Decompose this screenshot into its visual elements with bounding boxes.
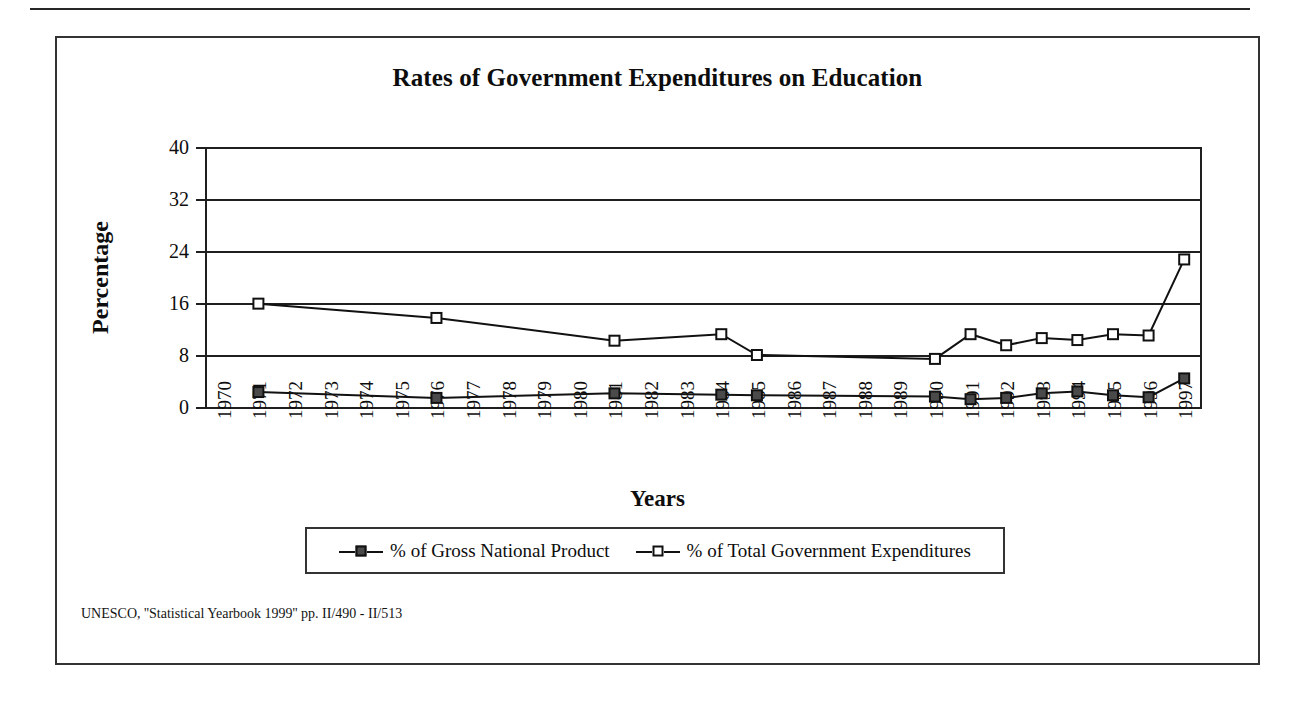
legend-label-govt-expenditures: % of Total Government Expenditures xyxy=(687,540,971,562)
page-top-rule xyxy=(30,8,1250,10)
data-point-1990 xyxy=(930,392,940,402)
plot-area: 0816243240 19701971197219731974197519761… xyxy=(205,147,1202,407)
data-point-1996 xyxy=(1144,331,1154,341)
data-point-1992 xyxy=(1001,340,1011,350)
filled-square-marker-icon xyxy=(339,544,383,558)
data-point-1985 xyxy=(752,390,762,400)
source-note: UNESCO, ''Statistical Yearbook 1999'' pp… xyxy=(81,606,402,622)
legend-entry-gnp: % of Gross National Product xyxy=(339,540,610,562)
y-axis-title: Percentage xyxy=(85,147,115,407)
legend: % of Gross National Product % of Total G… xyxy=(305,527,1005,574)
y-axis-title-label: Percentage xyxy=(87,221,114,334)
data-point-1985 xyxy=(752,350,762,360)
data-point-1994 xyxy=(1072,386,1082,396)
data-point-1984 xyxy=(716,390,726,400)
data-point-1992 xyxy=(1001,393,1011,403)
legend-label-gnp: % of Gross National Product xyxy=(390,540,610,562)
data-point-1976 xyxy=(431,393,441,403)
y-tick-label-8: 8 xyxy=(179,344,189,367)
y-tick-label-40: 40 xyxy=(169,136,189,159)
y-tick-label-24: 24 xyxy=(169,240,189,263)
y-tick-16 xyxy=(196,303,205,305)
data-point-1995 xyxy=(1108,329,1118,339)
data-point-1976 xyxy=(431,313,441,323)
data-point-1981 xyxy=(609,388,619,398)
y-tick-label-0: 0 xyxy=(179,396,189,419)
data-point-1993 xyxy=(1037,388,1047,398)
y-tick-0 xyxy=(196,407,205,409)
data-point-1990 xyxy=(930,354,940,364)
series-gnp xyxy=(253,373,1189,404)
y-tick-32 xyxy=(196,199,205,201)
data-point-1984 xyxy=(716,329,726,339)
series-layer xyxy=(205,147,1202,407)
data-point-1997 xyxy=(1179,254,1189,264)
data-point-1995 xyxy=(1108,390,1118,400)
data-point-1994 xyxy=(1072,335,1082,345)
data-point-1971 xyxy=(253,387,263,397)
data-point-1997 xyxy=(1179,373,1189,383)
x-axis-title: Years xyxy=(57,486,1258,512)
hollow-square-marker-icon xyxy=(636,544,680,558)
y-tick-8 xyxy=(196,355,205,357)
data-point-1996 xyxy=(1144,392,1154,402)
chart-title: Rates of Government Expenditures on Educ… xyxy=(57,64,1258,92)
y-tick-24 xyxy=(196,251,205,253)
legend-entry-govt-expenditures: % of Total Government Expenditures xyxy=(636,540,971,562)
data-point-1981 xyxy=(609,336,619,346)
y-tick-label-16: 16 xyxy=(169,292,189,315)
chart-frame: Rates of Government Expenditures on Educ… xyxy=(55,36,1260,665)
data-point-1971 xyxy=(253,299,263,309)
data-point-1993 xyxy=(1037,333,1047,343)
y-tick-label-32: 32 xyxy=(169,188,189,211)
series-govt-expenditures xyxy=(253,254,1189,363)
data-point-1991 xyxy=(966,394,976,404)
y-tick-40 xyxy=(196,147,205,149)
data-point-1991 xyxy=(966,329,976,339)
